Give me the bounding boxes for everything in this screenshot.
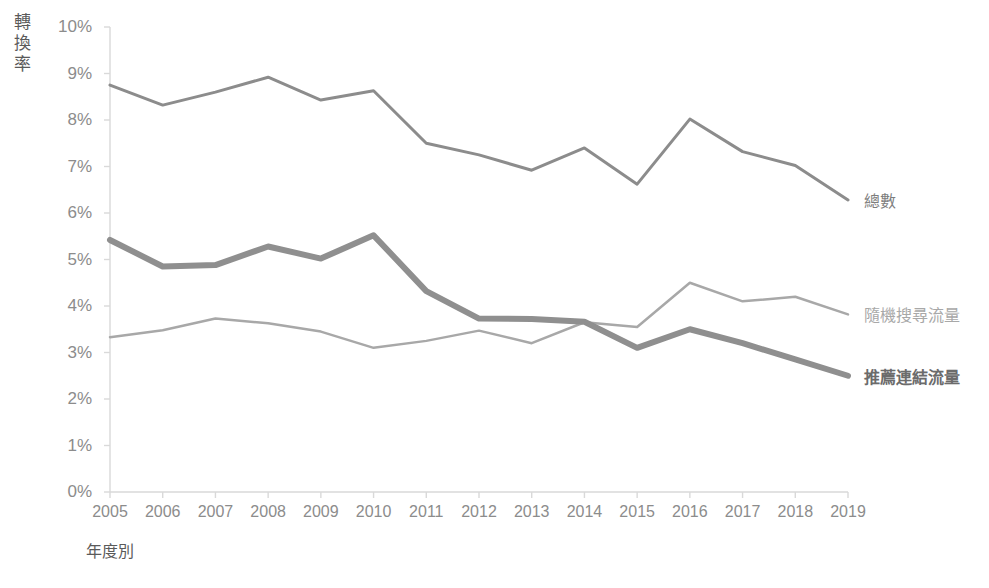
series-label-3: 推薦連結流量 xyxy=(864,364,960,388)
x-axis-title: 年度別 xyxy=(86,538,134,562)
chart-container: 轉 換 率 0%1%2%3%4%5%6%7%8%9%10% 2005200620… xyxy=(0,0,989,588)
series-label-2: 隨機搜尋流量 xyxy=(864,302,960,326)
plot-area xyxy=(0,0,989,588)
series-label-1: 總數 xyxy=(864,188,896,212)
series-line-3 xyxy=(110,235,848,375)
series-line-1 xyxy=(110,77,848,200)
